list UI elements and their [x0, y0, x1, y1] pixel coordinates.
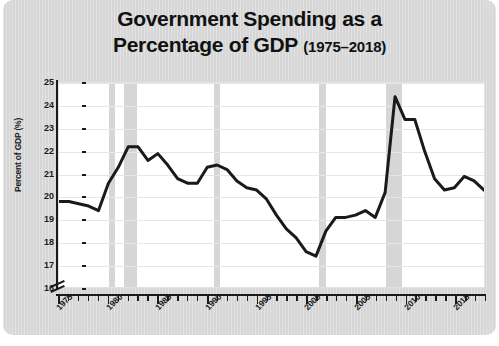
- y-tick-label: 18: [32, 238, 54, 247]
- y-tick-label: 17: [32, 261, 54, 270]
- y-axis-title: Percent of GDP (%): [13, 107, 23, 203]
- y-tick-label: 20: [32, 192, 54, 201]
- x-tick-mark-minor: [346, 296, 347, 301]
- y-tick-label: 19: [32, 215, 54, 224]
- y-tick-label: 24: [32, 101, 54, 110]
- x-tick-mark-minor: [187, 296, 188, 301]
- chart-title-line-2: Percentage of GDP (1975–2018): [0, 32, 499, 60]
- x-tick-mark-minor: [197, 296, 198, 301]
- plot-wrapper: [58, 82, 485, 288]
- chart-title-main: Percentage of GDP: [113, 33, 303, 56]
- x-tick-mark-minor: [237, 296, 238, 301]
- y-tick-mark: [82, 82, 86, 84]
- x-tick-mark-minor: [376, 296, 377, 301]
- x-tick-mark-minor: [435, 296, 436, 301]
- y-tick-label: 25: [32, 78, 54, 87]
- x-tick-mark-minor: [296, 296, 297, 301]
- x-tick-mark-minor: [286, 296, 287, 301]
- y-tick-mark: [82, 265, 86, 267]
- y-tick-label: 21: [32, 170, 54, 179]
- x-tick-mark-minor: [485, 296, 486, 301]
- x-tick-mark-minor: [396, 296, 397, 301]
- y-axis-break-icon: [50, 281, 66, 295]
- data-series-layer: [59, 83, 484, 288]
- y-tick-label: 23: [32, 124, 54, 133]
- y-tick-mark: [82, 151, 86, 153]
- spending-line-series: [59, 97, 484, 256]
- x-tick-mark-minor: [128, 296, 129, 301]
- x-tick-mark-minor: [445, 296, 446, 301]
- y-tick-mark: [82, 128, 86, 130]
- x-tick-mark-minor: [326, 296, 327, 301]
- y-axis-line: [56, 80, 58, 289]
- y-tick-mark: [82, 219, 86, 221]
- chart-title-year-range: (1975–2018): [303, 38, 386, 55]
- x-tick-mark-minor: [386, 296, 387, 301]
- x-tick-mark-minor: [88, 296, 89, 301]
- x-tick-mark-minor: [247, 296, 248, 301]
- x-tick-mark-minor: [98, 296, 99, 301]
- y-tick-mark: [82, 242, 86, 244]
- x-tick-mark-minor: [475, 296, 476, 301]
- x-tick-mark-minor: [336, 296, 337, 301]
- x-tick-mark-minor: [137, 296, 138, 301]
- y-tick-mark: [82, 174, 86, 176]
- chart-figure: Government Spending as a Percentage of G…: [0, 0, 499, 346]
- y-tick-mark: [82, 105, 86, 107]
- x-tick-mark-minor: [227, 296, 228, 301]
- chart-title-line-1: Government Spending as a: [0, 6, 499, 32]
- chart-title-block: Government Spending as a Percentage of G…: [0, 6, 499, 60]
- x-tick-mark-minor: [147, 296, 148, 301]
- x-tick-mark-minor: [177, 296, 178, 301]
- y-tick-mark: [82, 288, 86, 290]
- x-tick-mark-minor: [276, 296, 277, 301]
- x-tick-mark-minor: [425, 296, 426, 301]
- y-tick-mark: [82, 196, 86, 198]
- y-tick-label: 22: [32, 147, 54, 156]
- plot-area: [58, 82, 485, 288]
- x-tick-mark-minor: [78, 296, 79, 301]
